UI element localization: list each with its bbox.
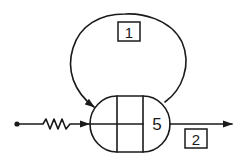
label-1-text: 1	[125, 24, 133, 41]
node-capsule: 5	[90, 96, 170, 152]
label-2-text: 2	[192, 131, 200, 148]
label-box-1: 1	[118, 22, 140, 41]
zigzag-spring-icon	[17, 119, 89, 129]
label-box-2: 2	[185, 129, 207, 148]
feedback-loop-diagram: 1 5 2	[0, 0, 246, 160]
input-path	[14, 119, 89, 129]
node-label-5: 5	[152, 115, 161, 134]
